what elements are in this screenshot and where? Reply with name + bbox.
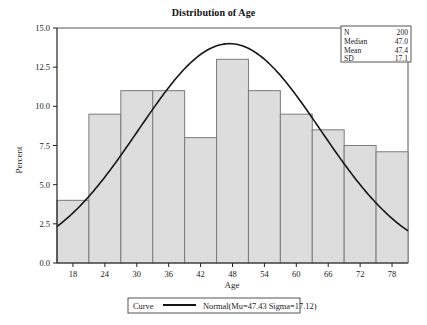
histogram-bar xyxy=(248,91,280,263)
histogram-bar xyxy=(153,91,185,263)
y-tick-label: 12.5 xyxy=(35,62,50,72)
y-tick-label: 5.0 xyxy=(39,180,50,190)
x-tick-label: 72 xyxy=(356,269,365,279)
legend-normal-label: Normal(Mu=47.43 Sigma=17.12) xyxy=(203,302,317,311)
x-axis-title: Age xyxy=(225,280,240,290)
y-tick-label: 15.0 xyxy=(35,23,50,33)
stat-median-value: 47.0 xyxy=(395,37,408,46)
histogram-bar xyxy=(280,114,312,263)
stat-n-label: N xyxy=(344,28,350,37)
statistics-box: N 200 Median 47.0 Mean 47.4 SD 17.1 xyxy=(341,26,411,63)
histogram-bar xyxy=(57,200,89,263)
x-tick-label: 24 xyxy=(101,269,110,279)
x-tick-label: 66 xyxy=(324,269,333,279)
histogram-bar xyxy=(312,130,344,263)
plot-canvas: 0.02.55.07.510.012.515.0 182430364248546… xyxy=(0,0,427,325)
histogram-chart: Distribution of Age 0.02.55.07.510.012.5… xyxy=(0,0,427,325)
stat-median-label: Median xyxy=(344,37,367,46)
y-axis-ticks: 0.02.55.07.510.012.515.0 xyxy=(35,23,57,268)
x-tick-label: 78 xyxy=(388,269,397,279)
y-tick-label: 7.5 xyxy=(39,141,50,151)
x-tick-label: 60 xyxy=(292,269,301,279)
bar-series xyxy=(57,59,408,263)
histogram-bar xyxy=(89,114,121,263)
stat-sd-label: SD xyxy=(344,54,354,63)
x-tick-label: 36 xyxy=(164,269,173,279)
y-tick-label: 0.0 xyxy=(39,258,50,268)
x-tick-label: 48 xyxy=(228,269,237,279)
x-tick-label: 42 xyxy=(196,269,205,279)
stat-sd-value: 17.1 xyxy=(395,54,408,63)
x-axis-ticks: 1824303642485460667278 xyxy=(69,263,397,279)
legend-curve-label: Curve xyxy=(133,302,154,311)
histogram-bar xyxy=(185,138,217,263)
x-tick-label: 54 xyxy=(260,269,269,279)
histogram-bar xyxy=(344,146,376,264)
chart-legend: Curve Normal(Mu=47.43 Sigma=17.12) xyxy=(128,298,317,313)
y-tick-label: 2.5 xyxy=(39,219,50,229)
y-axis-title: Percent xyxy=(14,146,24,173)
x-tick-label: 30 xyxy=(133,269,142,279)
histogram-bar xyxy=(217,59,249,263)
y-tick-label: 10.0 xyxy=(35,101,50,111)
x-tick-label: 18 xyxy=(69,269,78,279)
stat-n-value: 200 xyxy=(397,28,409,37)
